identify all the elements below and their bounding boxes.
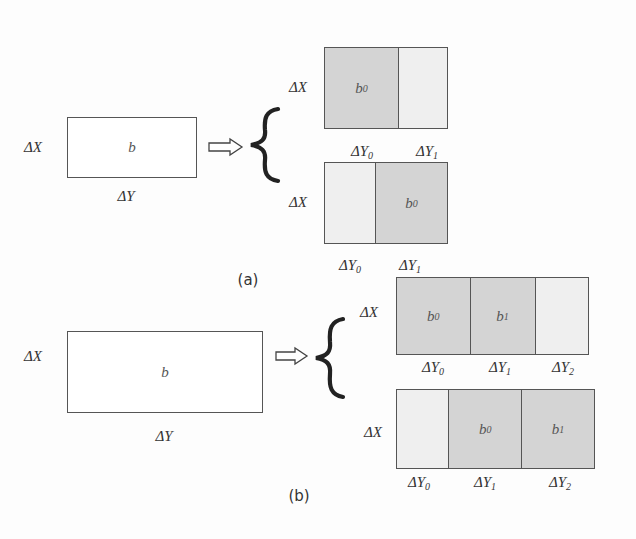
left-brace-icon: [313, 318, 347, 398]
panel-a-caption: (a): [238, 271, 259, 289]
cell-width-label: ΔY2: [549, 474, 571, 492]
right-arrow-icon: [208, 138, 244, 156]
cell-width-label: ΔY1: [399, 257, 421, 275]
block-cell: b0: [325, 48, 398, 128]
cell-width-label: ΔY1: [416, 143, 438, 161]
source-block: b: [67, 331, 263, 413]
block-cell: b1: [470, 278, 535, 354]
block-cell: b0: [397, 278, 470, 354]
split-block: b0: [324, 47, 448, 129]
source-block: b: [67, 117, 197, 178]
figure: ΔX b ΔY ΔX b0 ΔY0 ΔY1 ΔX b0 ΔY0 ΔY1 (a): [0, 0, 636, 539]
block-cell: [398, 48, 447, 128]
cell-width-label: ΔY1: [489, 359, 511, 377]
split-height-label: ΔX: [360, 304, 378, 321]
cell-width-label: ΔY0: [339, 257, 361, 275]
block-cell: b0: [375, 163, 447, 243]
cell-width-label: ΔY0: [422, 359, 444, 377]
block-cell: [535, 278, 588, 354]
split-height-label: ΔX: [289, 194, 307, 211]
cell-width-label: ΔY2: [552, 359, 574, 377]
block-cell: b1: [521, 390, 594, 468]
block-cell: b0: [448, 390, 521, 468]
source-height-label: ΔX: [24, 348, 42, 365]
source-height-label: ΔX: [24, 139, 42, 156]
block-cell: [397, 390, 448, 468]
split-block: b0 b1: [396, 389, 595, 469]
right-arrow-icon: [275, 347, 309, 365]
split-height-label: ΔX: [289, 79, 307, 96]
source-block-cell: b: [68, 118, 196, 177]
cell-width-label: ΔY1: [474, 474, 496, 492]
panel-b-caption: (b): [288, 487, 309, 505]
split-height-label: ΔX: [364, 424, 382, 441]
source-block-cell: b: [68, 332, 262, 412]
cell-width-label: ΔY0: [408, 474, 430, 492]
split-block: b0: [324, 162, 448, 244]
split-block: b0 b1: [396, 277, 589, 355]
source-width-label: ΔY: [155, 428, 172, 445]
left-brace-icon: [248, 108, 282, 182]
block-cell: [325, 163, 375, 243]
source-width-label: ΔY: [117, 188, 134, 205]
cell-width-label: ΔY0: [351, 143, 373, 161]
